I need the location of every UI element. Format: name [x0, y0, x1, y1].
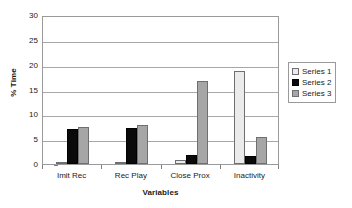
legend-label: Series 2 [302, 78, 331, 87]
legend-swatch-icon [292, 79, 299, 86]
bar [126, 128, 137, 164]
legend-label: Series 1 [302, 67, 331, 76]
x-axis-tick-marks [42, 165, 279, 169]
y-tick-label: 20 [16, 62, 38, 70]
x-tick-mark [42, 165, 43, 169]
x-tick-mark [101, 165, 102, 169]
bar [137, 125, 148, 164]
legend-swatch-icon [292, 68, 299, 75]
bar-group [43, 17, 102, 164]
bar [197, 81, 208, 164]
legend-label: Series 3 [302, 89, 331, 98]
bar-group [162, 17, 221, 164]
bar-group [102, 17, 161, 164]
bar [78, 127, 89, 164]
legend-item[interactable]: Series 1 [292, 66, 331, 77]
bar [175, 160, 186, 164]
y-tick-label: 0 [16, 161, 38, 169]
y-axis-tick-labels: 051015202530 [16, 16, 38, 165]
x-tick-mark [278, 165, 279, 169]
x-axis-title: Variables [42, 188, 279, 197]
bar-group [221, 17, 280, 164]
bars-layer [43, 17, 278, 164]
bar-chart: % Time 051015202530 Imit RecRec PlayClos… [0, 0, 352, 208]
x-tick-mark [161, 165, 162, 169]
x-tick-label: Close Prox [171, 171, 210, 181]
x-tick-label: Rec Play [115, 171, 147, 181]
chart-legend: Series 1Series 2Series 3 [288, 62, 336, 103]
legend-item[interactable]: Series 2 [292, 77, 331, 88]
x-tick-label: Inactivity [234, 171, 265, 181]
x-tick-label: Imit Rec [57, 171, 86, 181]
plot-area [42, 16, 279, 165]
x-tick-mark [220, 165, 221, 169]
legend-swatch-icon [292, 90, 299, 97]
y-tick-label: 30 [16, 12, 38, 20]
y-tick-label: 15 [16, 87, 38, 95]
legend-item[interactable]: Series 3 [292, 88, 331, 99]
y-tick-label: 5 [16, 136, 38, 144]
y-tick-label: 25 [16, 37, 38, 45]
bar [115, 162, 126, 164]
bar [186, 155, 197, 164]
x-axis-tick-labels: Imit RecRec PlayClose ProxInactivity [42, 171, 279, 183]
bar [234, 71, 245, 164]
bar [67, 129, 78, 164]
bar [56, 162, 67, 164]
bar [245, 156, 256, 164]
y-tick-label: 10 [16, 111, 38, 119]
bar [256, 137, 267, 164]
